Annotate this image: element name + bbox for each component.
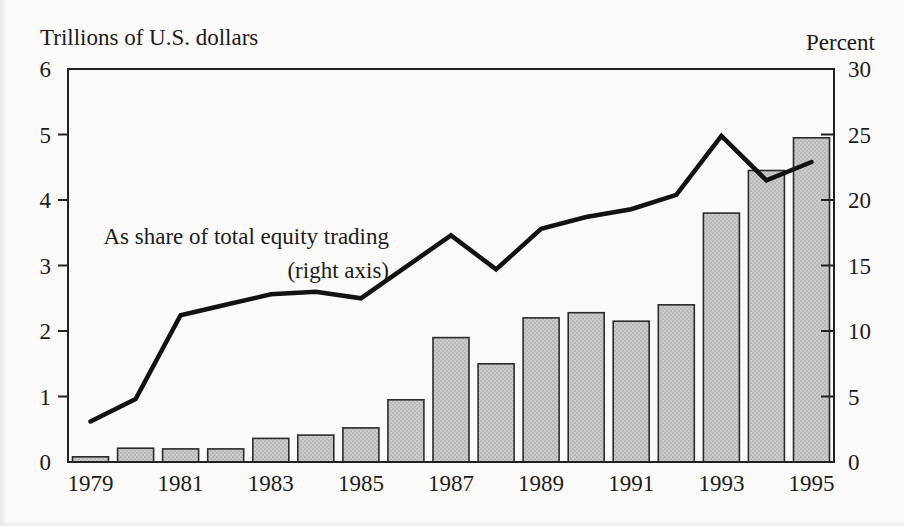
bar-1984 — [298, 435, 334, 462]
left-axis-tick-label-2: 2 — [40, 319, 52, 344]
left-axis-tick-label-1: 1 — [40, 385, 52, 410]
bar-1981 — [163, 449, 199, 462]
right-axis-tick-label-30: 30 — [848, 57, 871, 82]
bar-1982 — [208, 449, 244, 462]
x-axis-tick-label-1985: 1985 — [338, 471, 384, 496]
bar-1986 — [388, 400, 424, 462]
bar-1993 — [703, 213, 739, 462]
left-axis-tick-label-5: 5 — [40, 123, 52, 148]
right-axis-tick-label-25: 25 — [848, 123, 871, 148]
x-axis-tick-label-1991: 1991 — [608, 471, 654, 496]
bar-1983 — [253, 438, 289, 462]
x-axis-tick-label-1981: 1981 — [158, 471, 204, 496]
right-axis-tick-label-0: 0 — [848, 450, 860, 475]
x-axis-tick-label-1995: 1995 — [789, 471, 835, 496]
chart-canvas: 0123456051015202530197919811983198519871… — [0, 0, 904, 526]
right-axis-tick-label-15: 15 — [848, 254, 871, 279]
bar-1995 — [794, 138, 830, 462]
left-axis-tick-label-6: 6 — [40, 57, 52, 82]
bar-1990 — [568, 313, 604, 462]
right-axis-tick-label-10: 10 — [848, 319, 871, 344]
right-axis-tick-label-5: 5 — [848, 385, 860, 410]
x-axis-tick-label-1993: 1993 — [698, 471, 744, 496]
x-axis-tick-label-1989: 1989 — [518, 471, 564, 496]
bar-1980 — [118, 448, 154, 462]
left-axis-tick-label-4: 4 — [40, 188, 52, 213]
bar-1989 — [523, 318, 559, 462]
left-axis-tick-label-0: 0 — [40, 450, 52, 475]
bar-1992 — [658, 305, 694, 462]
bar-1994 — [748, 171, 784, 463]
bar-1987 — [433, 338, 469, 462]
x-axis-tick-label-1987: 1987 — [428, 471, 474, 496]
bar-1985 — [343, 428, 379, 462]
right-axis-tick-label-20: 20 — [848, 188, 871, 213]
x-axis-tick-label-1979: 1979 — [68, 471, 114, 496]
left-axis-tick-label-3: 3 — [40, 254, 52, 279]
x-axis-tick-label-1983: 1983 — [248, 471, 294, 496]
bar-1988 — [478, 364, 514, 462]
bar-1991 — [613, 321, 649, 462]
